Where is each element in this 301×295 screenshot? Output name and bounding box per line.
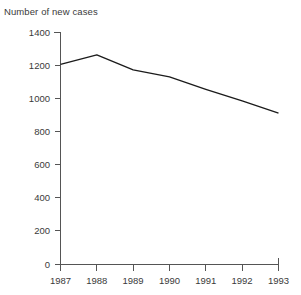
y-tick-label: 800 bbox=[34, 126, 50, 137]
x-tick-label: 1987 bbox=[50, 275, 71, 286]
x-tick-label: 1992 bbox=[232, 275, 253, 286]
data-series-line bbox=[61, 55, 279, 113]
y-tick-label: 200 bbox=[34, 225, 50, 236]
y-tick-label: 0 bbox=[45, 259, 50, 270]
y-tick-label: 1400 bbox=[29, 27, 50, 38]
x-axis-tick-labels: 1987 1988 1989 1990 1991 1992 1993 bbox=[50, 275, 289, 286]
x-tick-label: 1991 bbox=[195, 275, 216, 286]
x-tick-label: 1989 bbox=[123, 275, 144, 286]
y-tick-label: 1200 bbox=[29, 60, 50, 71]
x-tick-marks bbox=[61, 265, 279, 271]
x-tick-label: 1988 bbox=[86, 275, 107, 286]
y-tick-label: 1000 bbox=[29, 93, 50, 104]
y-tick-label: 400 bbox=[34, 192, 50, 203]
chart-figure: Number of new cases 1400 1200 1000 800 6… bbox=[0, 0, 301, 295]
y-tick-label: 600 bbox=[34, 159, 50, 170]
x-tick-label: 1993 bbox=[268, 275, 289, 286]
line-chart-plot: 1400 1200 1000 800 600 400 200 0 1987 19… bbox=[0, 0, 301, 295]
x-tick-label: 1990 bbox=[159, 275, 180, 286]
y-axis-tick-labels: 1400 1200 1000 800 600 400 200 0 bbox=[29, 27, 50, 270]
y-tick-marks bbox=[55, 65, 61, 264]
